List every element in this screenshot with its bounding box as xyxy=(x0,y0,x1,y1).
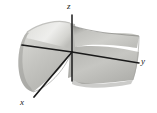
y-axis-label: y xyxy=(141,57,145,66)
x-axis-label: x xyxy=(20,98,24,107)
z-axis-label: z xyxy=(67,2,71,11)
surface-left-lobe xyxy=(18,21,72,92)
surface-plot-figure: z y x xyxy=(0,0,157,113)
